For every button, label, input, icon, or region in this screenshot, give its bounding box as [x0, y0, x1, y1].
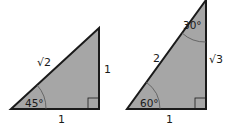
triangle-45-45-90: 45° √2 1 1 [11, 28, 111, 126]
vertical-side-label: 1 [104, 63, 111, 76]
angle-label-45: 45° [25, 97, 44, 109]
angle-label-30: 30° [183, 19, 202, 31]
triangle-30-60-shape [127, 0, 206, 109]
triangle-30-60-90: 60° 30° 2 √3 1 [127, 0, 223, 126]
base-label: 1 [166, 113, 173, 126]
base-label: 1 [58, 113, 65, 126]
hypotenuse-label-2: 2 [153, 52, 160, 65]
special-right-triangles-diagram: 45° √2 1 1 60° 30° 2 √3 1 [0, 0, 226, 131]
hypotenuse-label-sqrt2: √2 [37, 56, 51, 69]
angle-label-60: 60° [140, 97, 159, 109]
vertical-side-label-sqrt3: √3 [209, 53, 223, 66]
